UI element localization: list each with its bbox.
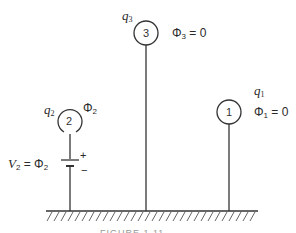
conductor-1-charge-label: q1 [254, 84, 265, 99]
conductor-2-number: 2 [62, 115, 76, 127]
ground-hatching [47, 212, 255, 221]
conductor-2-potential-label: Φ2 [83, 102, 97, 116]
battery-minus-sign: − [81, 165, 87, 176]
conductor-3-number: 3 [139, 27, 153, 39]
conductor-2-charge-label: q2 [44, 103, 55, 118]
conductor-1-number: 1 [222, 106, 236, 118]
conductor-3-potential-label: Φ3 = 0 [172, 27, 206, 41]
conductor-1-potential-label: Φ1 = 0 [254, 106, 288, 120]
figure-caption: FIGURE 1.11 [100, 228, 164, 233]
conductor-3-charge-label: q3 [122, 9, 133, 24]
battery-plus-sign: + [80, 150, 86, 161]
battery-voltage-label: V2 = Φ2 [8, 157, 48, 172]
